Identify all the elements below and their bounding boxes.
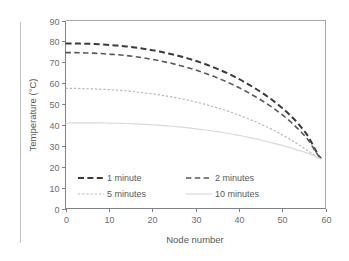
x-tick-label: 60 xyxy=(321,215,331,225)
y-tick-label: 50 xyxy=(49,100,59,110)
y-axis-ticks xyxy=(62,22,66,210)
x-axis-ticks xyxy=(67,209,327,213)
y-tick-label: 60 xyxy=(49,79,59,89)
series-group xyxy=(66,43,322,158)
x-tick-label: 50 xyxy=(277,215,287,225)
y-tick-label: 30 xyxy=(49,142,59,152)
temperature-vs-node-chart: 0102030405060708090 0102030405060 Temper… xyxy=(0,0,349,261)
y-axis-title: Temperature (°C) xyxy=(27,79,38,152)
y-tick-label: 40 xyxy=(49,121,59,131)
x-tick-label: 10 xyxy=(104,215,114,225)
chart-canvas: 0102030405060708090 0102030405060 Temper… xyxy=(0,0,349,261)
series-line-10-minutes xyxy=(66,123,322,159)
x-axis-title: Node number xyxy=(166,234,224,245)
x-tick-label: 20 xyxy=(147,215,157,225)
y-tick-label: 20 xyxy=(49,163,59,173)
legend-label-10-minutes: 10 minutes xyxy=(215,189,260,199)
y-tick-label: 90 xyxy=(49,17,59,27)
y-tick-label: 70 xyxy=(49,58,59,68)
legend: 1 minute2 minutes5 minutes10 minutes xyxy=(78,173,260,199)
legend-label-1-minute: 1 minute xyxy=(107,173,142,183)
series-line-1-minute xyxy=(66,43,322,158)
plot-frame xyxy=(66,21,326,209)
y-axis-tick-labels: 0102030405060708090 xyxy=(49,17,59,215)
series-line-5-minutes xyxy=(66,88,322,158)
legend-label-5-minutes: 5 minutes xyxy=(107,189,147,199)
x-tick-label: 40 xyxy=(234,215,244,225)
x-tick-label: 30 xyxy=(191,215,201,225)
y-tick-label: 10 xyxy=(49,184,59,194)
legend-label-2-minutes: 2 minutes xyxy=(215,173,255,183)
y-tick-label: 80 xyxy=(49,37,59,47)
x-axis-tick-labels: 0102030405060 xyxy=(64,215,332,225)
y-tick-label: 0 xyxy=(54,205,59,215)
series-line-2-minutes xyxy=(66,53,322,159)
x-tick-label: 0 xyxy=(64,215,69,225)
